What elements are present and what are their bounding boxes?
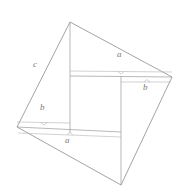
brace-tick-b-left [41, 123, 47, 126]
figure-root: c a b b a [0, 0, 189, 194]
brace-line-b-left [17, 122, 70, 123]
inner-chord-bottom [17, 127, 121, 132]
side-label-a-bottom: a [65, 136, 70, 145]
outer-edge-bottom-right [121, 77, 172, 185]
side-label-c: c [33, 60, 37, 69]
brace-tick-a-top [118, 72, 124, 75]
side-label-b-right: b [143, 83, 148, 92]
side-label-b-left: b [40, 103, 45, 112]
geometry-diagram [0, 0, 189, 194]
brace-line-a-top [70, 71, 172, 72]
side-label-a-top: a [117, 50, 122, 59]
